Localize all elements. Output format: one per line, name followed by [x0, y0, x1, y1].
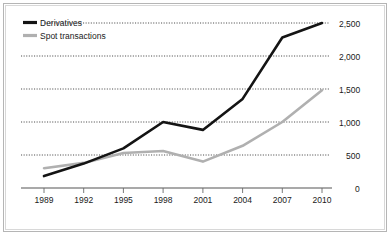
- y-label-1000: 1,000: [339, 118, 361, 128]
- y-label-2500: 2,500: [339, 19, 361, 29]
- x-label-2001: 2001: [193, 195, 212, 205]
- legend-label-derivatives: Derivatives: [40, 18, 82, 28]
- y-axis-labels: 2,500 2,000 1,500 1,000 500 0: [339, 19, 361, 194]
- gridlines: [21, 23, 330, 155]
- y-label-2000: 2,000: [339, 52, 361, 62]
- x-label-1989: 1989: [35, 195, 54, 205]
- x-label-2010: 2010: [313, 195, 332, 205]
- series-line-spot-transactions: [44, 90, 322, 168]
- chart-legend: Derivatives Spot transactions: [23, 18, 106, 41]
- x-label-1992: 1992: [74, 195, 93, 205]
- x-label-2004: 2004: [233, 195, 252, 205]
- y-label-0: 0: [355, 184, 360, 194]
- legend-label-spot-transactions: Spot transactions: [40, 31, 106, 41]
- x-axis-labels: 1989 1992 1995 1998 2001 2004 2007 2010: [35, 195, 332, 205]
- line-chart-plot: 2,500 2,000 1,500 1,000 500 0 1989 1992 …: [0, 0, 390, 235]
- x-axis-ticks: [44, 188, 322, 193]
- chart-figure: 2,500 2,000 1,500 1,000 500 0 1989 1992 …: [0, 0, 390, 235]
- x-label-2007: 2007: [273, 195, 292, 205]
- series-line-derivatives: [44, 23, 322, 176]
- y-label-1500: 1,500: [339, 85, 361, 95]
- y-label-500: 500: [346, 151, 360, 161]
- x-label-1998: 1998: [154, 195, 173, 205]
- x-label-1995: 1995: [114, 195, 133, 205]
